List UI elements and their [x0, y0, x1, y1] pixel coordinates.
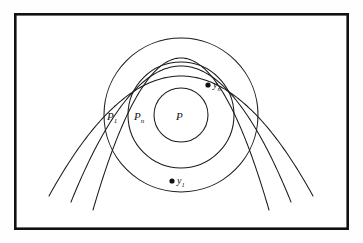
figure-canvas: P1 Pn P yn y1 — [0, 0, 363, 243]
point-dot-yn — [205, 82, 210, 87]
label-P: P — [175, 110, 183, 122]
diagram-svg: P1 Pn P yn y1 — [0, 0, 363, 243]
point-dot-y1 — [169, 178, 174, 183]
